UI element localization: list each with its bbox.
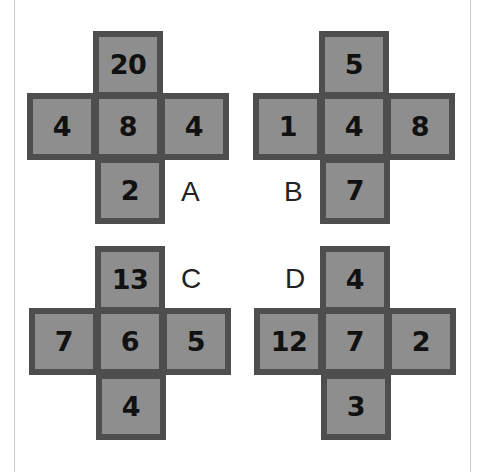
cross-b-center-cell: 4 [319,93,389,160]
cross-d-right-cell: 2 [386,308,456,375]
cross-c-top-cell: 13 [95,246,165,313]
cross-b-label: B [284,176,303,208]
cross-a-left-cell: 4 [27,93,97,160]
cross-d-top-cell: 4 [320,246,390,313]
cross-d-left-cell: 12 [254,308,324,375]
cross-a-label: A [181,176,200,208]
cross-d-label: D [285,263,305,295]
cross-a-top-cell: 20 [93,31,163,98]
cross-b-bottom-cell: 7 [320,157,390,224]
cross-a-bottom-cell: 2 [95,157,165,224]
cross-c-left-cell: 7 [29,308,99,375]
cross-c-center-cell: 6 [95,308,165,375]
cross-a-right-cell: 4 [159,93,229,160]
left-margin-rule [14,0,15,472]
cross-b-left-cell: 1 [253,93,323,160]
cross-a-center-cell: 8 [93,93,163,160]
cross-b-top-cell: 5 [319,31,389,98]
right-margin-rule [470,0,471,472]
cross-c-label: C [181,263,201,295]
cross-b-right-cell: 8 [385,93,455,160]
cross-c-right-cell: 5 [161,308,231,375]
cross-d-bottom-cell: 3 [321,373,391,440]
cross-c-bottom-cell: 4 [96,373,166,440]
cross-d-center-cell: 7 [320,308,390,375]
